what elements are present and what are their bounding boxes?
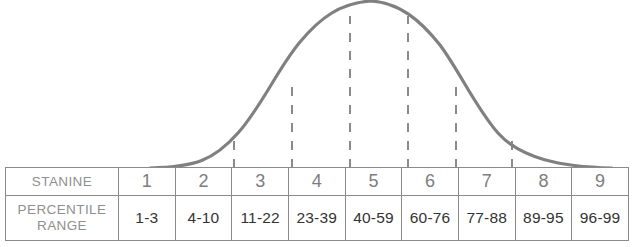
percentile-cell-1: 1-3 [119, 196, 176, 241]
stanine-cell-3: 3 [232, 168, 289, 196]
stanine-chart-figure: STANINE 1 2 3 4 5 6 7 8 9 PERCENTILE RAN… [0, 0, 632, 247]
table-row-percentile-range: PERCENTILE RANGE 1-3 4-10 11-22 23-39 40… [6, 196, 629, 241]
percentile-cell-5: 40-59 [345, 196, 402, 241]
row-label-stanine: STANINE [6, 168, 119, 196]
percentile-cell-8: 89-95 [515, 196, 572, 241]
stanine-percentile-table: STANINE 1 2 3 4 5 6 7 8 9 PERCENTILE RAN… [5, 167, 629, 241]
stanine-cell-5: 5 [345, 168, 402, 196]
percentile-cell-2: 4-10 [175, 196, 232, 241]
percentile-cell-7: 77-88 [458, 196, 515, 241]
row-label-percentile-line2: RANGE [6, 218, 118, 234]
stanine-cell-9: 9 [572, 168, 629, 196]
stanine-cell-8: 8 [515, 168, 572, 196]
percentile-cell-6: 60-76 [402, 196, 459, 241]
bell-curve-path [150, 1, 612, 168]
stanine-cell-4: 4 [288, 168, 345, 196]
percentile-cell-4: 23-39 [288, 196, 345, 241]
stanine-cell-2: 2 [175, 168, 232, 196]
table-row-stanine: STANINE 1 2 3 4 5 6 7 8 9 [6, 168, 629, 196]
percentile-cell-9: 96-99 [572, 196, 629, 241]
stanine-cell-1: 1 [119, 168, 176, 196]
stanine-cell-6: 6 [402, 168, 459, 196]
percentile-cell-3: 11-22 [232, 196, 289, 241]
stanine-cell-7: 7 [458, 168, 515, 196]
row-label-percentile-line1: PERCENTILE [6, 202, 118, 218]
row-label-percentile-range: PERCENTILE RANGE [6, 196, 119, 241]
